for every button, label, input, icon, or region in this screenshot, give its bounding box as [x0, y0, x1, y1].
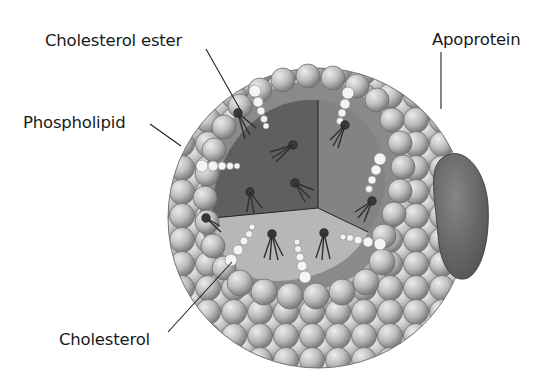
- label-phospholipid: Phospholipid: [23, 113, 125, 132]
- lipoprotein-diagram: Cholesterol ester Phospholipid Apoprotei…: [0, 0, 557, 382]
- lipoprotein-illustration: [0, 0, 557, 382]
- label-apoprotein: Apoprotein: [432, 30, 521, 49]
- label-cholesterol: Cholesterol: [59, 330, 150, 349]
- label-cholesterol-ester: Cholesterol ester: [45, 31, 182, 50]
